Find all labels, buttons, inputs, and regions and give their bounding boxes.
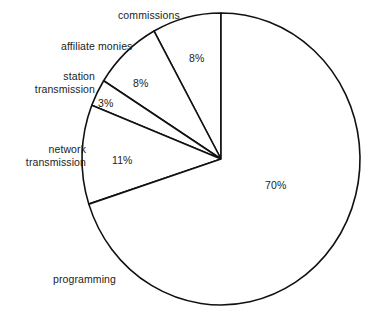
slice-label-network-line1: network: [49, 143, 86, 155]
slice-value-station-transmission: 3%: [98, 97, 113, 109]
slice-label-network-line2: transmission: [26, 156, 86, 168]
pie-chart: commissions affiliate monies station tra…: [0, 0, 378, 320]
slice-value-programming: 70%: [265, 179, 286, 191]
slice-label-programming: programming: [53, 273, 116, 286]
slice-value-commissions: 8%: [189, 52, 204, 64]
slice-value-affiliate-monies: 8%: [133, 77, 148, 89]
slice-label-commissions: commissions: [118, 9, 180, 22]
slice-label-station-transmission: station transmission: [3, 70, 95, 96]
slice-label-station-line1: station: [63, 70, 95, 82]
slice-label-affiliate-monies: affiliate monies: [61, 40, 132, 53]
slice-label-station-line2: transmission: [35, 83, 95, 95]
slice-value-network-transmission: 11%: [112, 154, 133, 166]
slice-label-network-transmission: network transmission: [0, 143, 86, 169]
